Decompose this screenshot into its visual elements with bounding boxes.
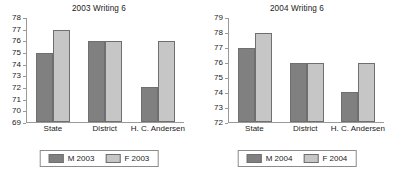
y-axis-tick-label: 74 bbox=[12, 61, 21, 69]
y-axis-tick-label: 75 bbox=[12, 49, 21, 57]
plot-area: 7978777675747372 bbox=[228, 18, 384, 123]
y-axis-tick bbox=[23, 53, 26, 54]
y-axis-tick-label: 73 bbox=[214, 104, 223, 112]
y-axis-tick bbox=[23, 88, 26, 89]
legend-item: F 2003 bbox=[105, 154, 149, 163]
bar-group bbox=[27, 18, 79, 122]
y-axis-tick-label: 79 bbox=[214, 14, 223, 22]
chart-title: 2003 Writing 6 bbox=[0, 4, 198, 13]
y-axis-tick bbox=[23, 30, 26, 31]
y-axis-tick-label: 70 bbox=[12, 107, 21, 115]
y-axis-tick-label: 75 bbox=[214, 74, 223, 82]
legend-label: M 2003 bbox=[68, 154, 95, 163]
bar bbox=[141, 87, 158, 122]
y-axis-tick-label: 72 bbox=[214, 119, 223, 127]
y-axis-tick bbox=[225, 108, 228, 109]
y-axis-tick bbox=[23, 65, 26, 66]
y-axis-tick-label: 69 bbox=[12, 119, 21, 127]
category-label: District bbox=[79, 124, 131, 133]
chart-panel-2004: 2004 Writing 6 7978777675747372 StateDis… bbox=[198, 0, 396, 176]
x-axis-line bbox=[26, 122, 184, 123]
y-axis-tick-label: 77 bbox=[214, 44, 223, 52]
legend-swatch bbox=[105, 154, 120, 163]
y-axis-tick-label: 73 bbox=[12, 72, 21, 80]
bar bbox=[290, 63, 307, 122]
legend-swatch bbox=[49, 154, 64, 163]
y-axis-tick bbox=[23, 100, 26, 101]
legend-item: M 2003 bbox=[49, 154, 95, 163]
legend-label: M 2004 bbox=[266, 154, 293, 163]
y-axis-tick-label: 78 bbox=[214, 29, 223, 37]
legend-swatch bbox=[303, 154, 318, 163]
bar bbox=[53, 30, 70, 122]
y-axis-tick bbox=[23, 76, 26, 77]
dual-bar-chart-figure: 2003 Writing 6 78777675747372717069 Stat… bbox=[0, 0, 396, 176]
y-axis-tick bbox=[23, 18, 26, 19]
bar-groups bbox=[27, 18, 184, 122]
y-axis-tick bbox=[225, 78, 228, 79]
bar bbox=[238, 48, 255, 122]
bar bbox=[341, 92, 358, 122]
y-axis-tick-label: 72 bbox=[12, 84, 21, 92]
bar-group bbox=[332, 18, 384, 122]
chart-legend: M 2003F 2003 bbox=[40, 150, 159, 167]
category-label: District bbox=[280, 124, 331, 133]
y-axis-tick bbox=[23, 111, 26, 112]
category-label: H. C. Andersen bbox=[331, 124, 385, 133]
y-axis-tick bbox=[225, 93, 228, 94]
bar-groups bbox=[229, 18, 384, 122]
legend-item: F 2004 bbox=[303, 154, 347, 163]
y-axis-tick bbox=[225, 48, 228, 49]
y-axis-tick bbox=[225, 18, 228, 19]
legend-item: M 2004 bbox=[247, 154, 293, 163]
y-axis-tick-label: 77 bbox=[12, 26, 21, 34]
y-axis-tick-label: 76 bbox=[12, 37, 21, 45]
category-labels: StateDistrictH. C. Andersen bbox=[27, 124, 185, 133]
category-label: State bbox=[229, 124, 280, 133]
bar-group bbox=[281, 18, 333, 122]
category-label: H. C. Andersen bbox=[131, 124, 185, 133]
bar-group bbox=[132, 18, 184, 122]
x-axis-line bbox=[228, 122, 384, 123]
y-axis-tick-label: 76 bbox=[214, 59, 223, 67]
chart-legend: M 2004F 2004 bbox=[238, 150, 357, 167]
y-axis-tick bbox=[225, 63, 228, 64]
bar bbox=[88, 41, 105, 122]
bar bbox=[307, 63, 324, 122]
plot-area: 78777675747372717069 bbox=[26, 18, 184, 123]
chart-title: 2004 Writing 6 bbox=[198, 4, 396, 13]
y-axis-tick bbox=[225, 33, 228, 34]
legend-label: F 2003 bbox=[124, 154, 149, 163]
bar-group bbox=[229, 18, 281, 122]
legend-label: F 2004 bbox=[322, 154, 347, 163]
bar bbox=[255, 33, 272, 122]
category-label: State bbox=[27, 124, 79, 133]
bar bbox=[358, 63, 375, 122]
bar bbox=[36, 53, 53, 122]
bar bbox=[158, 41, 175, 122]
y-axis-tick-label: 74 bbox=[214, 89, 223, 97]
y-axis-tick bbox=[23, 123, 26, 124]
legend-swatch bbox=[247, 154, 262, 163]
bar-group bbox=[79, 18, 131, 122]
chart-panel-2003: 2003 Writing 6 78777675747372717069 Stat… bbox=[0, 0, 198, 176]
bar bbox=[105, 41, 122, 122]
y-axis-tick bbox=[23, 41, 26, 42]
y-axis-tick-label: 78 bbox=[12, 14, 21, 22]
y-axis-tick-label: 71 bbox=[12, 96, 21, 104]
category-labels: StateDistrictH. C. Andersen bbox=[229, 124, 385, 133]
y-axis-tick bbox=[225, 123, 228, 124]
